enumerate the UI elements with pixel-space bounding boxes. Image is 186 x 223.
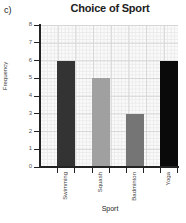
y-tick <box>34 78 40 79</box>
y-tick <box>34 149 40 150</box>
y-tick <box>34 25 40 26</box>
y-tick <box>34 167 40 168</box>
y-tick-label: 7 <box>22 39 32 45</box>
y-tick <box>34 131 40 132</box>
y-axis-title: Frequency <box>2 56 8 96</box>
y-tick-label: 5 <box>22 74 32 80</box>
y-tick-label: 2 <box>22 128 32 134</box>
x-tick-label: Squash <box>97 172 103 192</box>
x-tick <box>126 167 127 173</box>
y-tick-label: 1 <box>22 145 32 151</box>
y-tick <box>34 42 40 43</box>
y-tick-label: 4 <box>22 92 32 98</box>
x-tick <box>74 167 75 173</box>
y-tick <box>34 113 40 114</box>
y-tick-label: 6 <box>22 57 32 63</box>
x-tick <box>57 167 58 173</box>
part-label: c) <box>4 5 12 15</box>
x-tick <box>160 167 161 173</box>
bar-swimming <box>57 61 75 168</box>
x-tick <box>92 167 93 173</box>
x-axis-title: Sport <box>40 205 180 212</box>
x-tick-label: Badminton <box>131 172 137 201</box>
y-tick <box>34 96 40 97</box>
y-tick-label: 0 <box>22 163 32 169</box>
x-tick <box>177 167 178 173</box>
bar-squash <box>92 78 110 167</box>
bar-badminton <box>126 114 144 167</box>
bar-yoga <box>160 61 178 168</box>
x-tick <box>109 167 110 173</box>
y-tick-label: 3 <box>22 110 32 116</box>
x-tick-label: Swimming <box>62 172 68 200</box>
x-tick-label: Yoga <box>165 172 171 185</box>
y-tick <box>34 60 40 61</box>
chart-title: Choice of Sport <box>40 2 180 14</box>
x-tick <box>143 167 144 173</box>
y-tick-label: 8 <box>22 21 32 27</box>
